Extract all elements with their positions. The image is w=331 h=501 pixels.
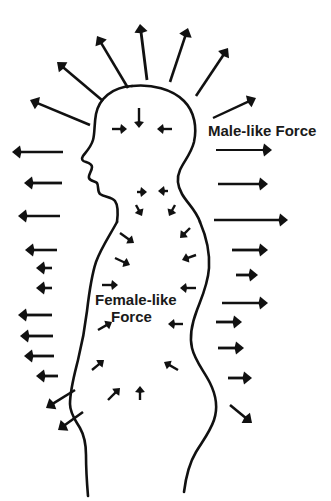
arrow-shaft [196,54,224,96]
male-force-arrow-24 [222,296,268,309]
male-force-arrow-23 [236,268,258,281]
female-force-arrow-8 [180,228,190,238]
female-force-arrow-3 [137,187,147,197]
arrow-head [249,268,258,281]
arrow-head [25,243,34,256]
diagram-canvas: Male-like Force Female-like Force [0,0,331,501]
arrow-head [279,213,288,226]
arrow-head [233,315,242,328]
male-force-arrow-7 [12,145,63,158]
arrow-head [122,258,130,267]
female-force-arrow-12 [180,283,196,293]
arrow-head [20,329,29,342]
female-force-label-line1: Female-like [95,291,177,308]
male-force-arrow-3 [196,48,229,96]
arrow-head [30,97,40,109]
arrow-head [246,95,256,107]
male-force-arrow-21 [214,213,288,226]
head-and-face-outline [82,86,132,222]
female-force-arrow-14 [168,319,183,329]
male-force-arrow-4 [57,62,103,101]
arrow-head [140,187,147,197]
male-force-arrow-22 [232,243,268,256]
arrow-head [263,143,272,156]
arrow-shaft [213,101,250,118]
female-like-force-arrows [92,108,196,400]
male-force-arrow-10 [25,243,57,256]
female-force-arrow-6 [168,205,177,216]
arrow-shaft [141,31,147,80]
male-force-arrow-26 [218,341,244,354]
female-force-label-line2: Force [111,308,152,325]
female-force-arrow-7 [120,233,134,244]
male-force-arrow-13 [18,308,52,321]
female-force-arrow-16 [164,361,178,370]
arrow-head [182,253,189,262]
female-force-arrow-1 [112,124,127,134]
arrow-head [259,243,268,256]
male-force-arrow-8 [24,176,62,189]
arrow-shaft [100,42,128,88]
female-force-arrow-2 [157,124,172,134]
arrow-head [259,177,268,190]
male-force-arrow-19 [216,143,272,156]
arrow-head [243,371,252,384]
arrow-head [120,124,127,134]
torso-front-left-outline [70,222,117,496]
arrow-head [24,349,33,362]
arrow-shaft [62,66,103,101]
female-force-arrow-11 [102,280,118,290]
male-force-arrow-20 [218,177,268,190]
arrow-shaft [36,103,90,125]
male-force-arrow-6 [213,95,256,118]
arrow-head [36,281,45,294]
arrow-head [235,341,244,354]
male-force-arrow-1 [134,24,147,80]
arrow-head [36,369,45,382]
male-force-arrow-5 [30,97,90,125]
female-force-arrow-4 [158,186,168,196]
arrow-head [18,209,27,222]
arrow-head [24,176,33,189]
male-force-arrow-0 [95,36,128,88]
female-force-arrow-0 [134,108,144,128]
male-force-arrow-15 [24,349,54,362]
female-force-arrow-5 [135,205,144,216]
arrow-shaft [170,34,186,82]
male-force-label: Male-like Force [208,122,316,139]
arrow-head [12,145,21,158]
female-force-arrow-17 [108,388,120,400]
male-force-arrow-11 [36,261,52,274]
male-force-arrow-16 [36,369,58,382]
female-force-arrow-18 [135,386,145,400]
male-force-arrow-25 [216,315,242,328]
arrow-head [135,386,145,393]
skull-back-and-neck-outline [132,86,200,222]
arrow-head [18,308,27,321]
arrow-head [111,280,118,290]
arrow-head [168,319,175,329]
arrow-head [157,124,164,134]
arrow-head [180,283,187,293]
arrow-shaft [230,405,247,419]
male-force-arrow-27 [228,371,252,384]
male-force-arrow-28 [230,405,252,423]
arrow-head [134,24,147,33]
arrow-head [36,261,45,274]
arrow-head [179,28,191,38]
arrow-head [58,420,68,431]
female-force-arrow-13 [98,321,112,330]
arrow-head [259,296,268,309]
female-force-arrow-9 [115,258,130,267]
arrow-head [158,186,165,196]
male-force-arrow-14 [20,329,53,342]
female-force-arrow-10 [182,253,196,262]
male-force-arrow-2 [170,28,192,82]
torso-back-right-outline [184,222,216,492]
arrow-head [134,121,144,128]
force-diagram-svg: Male-like Force Female-like Force [0,0,331,501]
male-force-arrow-9 [18,209,60,222]
female-force-arrow-15 [92,360,104,370]
male-force-arrow-12 [36,281,52,294]
